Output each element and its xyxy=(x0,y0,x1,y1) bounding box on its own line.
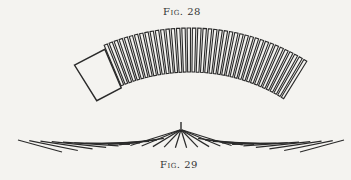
fan-line xyxy=(182,130,220,146)
figure-29-fan-diagram xyxy=(0,0,351,180)
fan-line xyxy=(142,130,180,146)
figure-29-caption: Fig. 29 xyxy=(160,159,198,170)
